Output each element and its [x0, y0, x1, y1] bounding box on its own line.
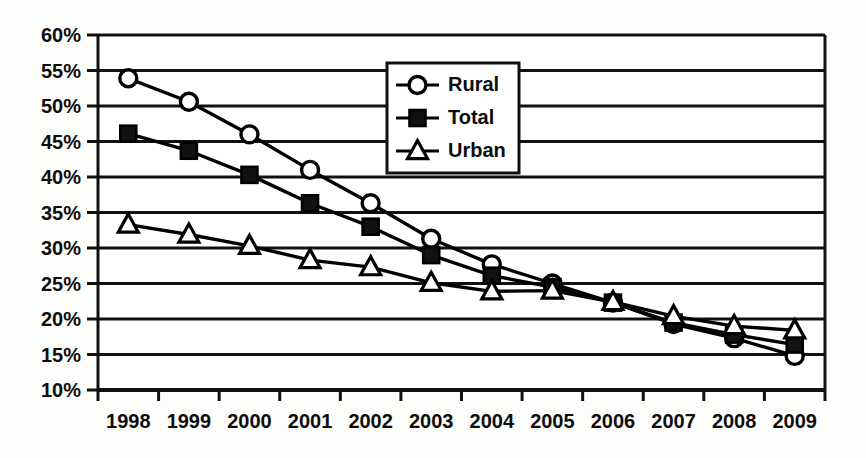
legend-marker-rural-open-circle-marker — [409, 77, 426, 94]
y-axis-tick-label: 60% — [41, 24, 81, 46]
x-axis-tick-label: 2000 — [227, 410, 272, 432]
y-axis-tick-label: 45% — [41, 131, 81, 153]
x-axis-tick-label: 2007 — [651, 410, 696, 432]
x-axis-tick-label: 2004 — [470, 410, 515, 432]
legend-label-urban: Urban — [448, 139, 506, 161]
x-axis-tick-label: 2008 — [712, 410, 757, 432]
data-point-rural-1999-open-circle-marker — [180, 93, 197, 110]
x-axis-tick-label: 2001 — [288, 410, 333, 432]
y-axis-tick-label: 35% — [41, 202, 81, 224]
x-axis-tick-label: 2003 — [409, 410, 454, 432]
data-point-total-1998-filled-square-marker — [120, 126, 136, 142]
x-axis-tick-label: 2002 — [348, 410, 393, 432]
data-point-total-2000-filled-square-marker — [241, 167, 257, 183]
y-axis-tick-label: 40% — [41, 166, 81, 188]
y-axis-tick-label: 50% — [41, 95, 81, 117]
x-axis-tick-label: 1998 — [106, 410, 151, 432]
data-point-total-1999-filled-square-marker — [181, 143, 197, 159]
y-axis-tick-label: 20% — [41, 308, 81, 330]
data-point-total-2003-filled-square-marker — [423, 247, 439, 263]
chart-canvas: 60%55%50%45%40%35%30%25%20%15%10%1998199… — [0, 0, 866, 458]
data-point-rural-2000-open-circle-marker — [241, 126, 258, 143]
data-point-rural-2002-open-circle-marker — [362, 195, 379, 212]
data-point-total-2001-filled-square-marker — [302, 195, 318, 211]
data-point-rural-2001-open-circle-marker — [302, 161, 319, 178]
data-point-rural-2003-open-circle-marker — [423, 230, 440, 247]
x-axis-tick-label: 2009 — [772, 410, 817, 432]
chart-legend: RuralTotalUrban — [387, 63, 519, 173]
x-axis-tick-label: 1999 — [167, 410, 212, 432]
y-axis-tick-label: 10% — [41, 379, 81, 401]
y-axis-tick-label: 25% — [41, 273, 81, 295]
data-point-total-2002-filled-square-marker — [363, 219, 379, 235]
y-axis-tick-label: 55% — [41, 60, 81, 82]
legend-label-total: Total — [448, 106, 494, 128]
y-axis-tick-label: 15% — [41, 344, 81, 366]
y-axis-tick-label: 30% — [41, 237, 81, 259]
x-axis-tick-label: 2006 — [591, 410, 636, 432]
x-axis-tick-label: 2005 — [530, 410, 575, 432]
legend-label-rural: Rural — [448, 73, 499, 95]
legend-marker-total-filled-square-marker — [410, 110, 426, 126]
data-point-rural-1998-open-circle-marker — [120, 70, 137, 87]
line-chart: 60%55%50%45%40%35%30%25%20%15%10%1998199… — [0, 0, 866, 458]
